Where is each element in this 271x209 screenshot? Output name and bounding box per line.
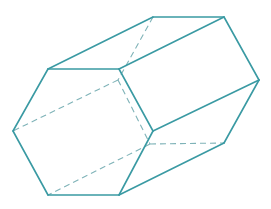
visible-edge: [119, 143, 224, 195]
visible-edge: [224, 17, 259, 80]
visible-edge: [13, 69, 48, 131]
hexagonal-prism-diagram: [0, 0, 271, 209]
visible-edge: [224, 80, 259, 143]
visible-edge: [119, 17, 224, 69]
visible-edge: [48, 17, 153, 69]
visible-edge: [13, 131, 48, 195]
visible-edge: [119, 131, 153, 195]
visible-edge: [153, 80, 259, 131]
hidden-edge: [13, 80, 118, 131]
hidden-edge: [150, 143, 224, 144]
visible-edge: [119, 69, 153, 131]
hidden-edge: [118, 80, 150, 144]
